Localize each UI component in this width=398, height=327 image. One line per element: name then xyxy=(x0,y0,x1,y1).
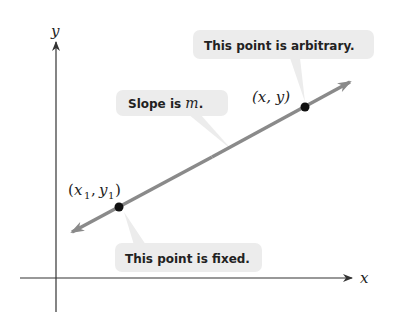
svg-text:(: ( xyxy=(68,181,74,199)
fixed-point xyxy=(115,203,124,212)
svg-text:,: , xyxy=(91,181,96,199)
svg-text:): ) xyxy=(115,181,121,199)
svg-text:This point is fixed.: This point is fixed. xyxy=(125,252,250,266)
callout-slope: Slope is m. xyxy=(116,90,228,116)
svg-text:This point is arbitrary.: This point is arbitrary. xyxy=(204,39,355,53)
svg-text:1: 1 xyxy=(108,190,114,201)
callout-pointer-fixed xyxy=(124,212,146,245)
callout-arbitrary: This point is arbitrary. xyxy=(193,30,374,59)
callout-pointer-slope xyxy=(188,114,232,150)
svg-text:1: 1 xyxy=(84,190,90,201)
callout-pointer-arbitrary xyxy=(290,58,305,102)
y-axis-label: y xyxy=(50,22,60,40)
arbitrary-point xyxy=(301,103,310,112)
svg-text:x: x xyxy=(74,181,83,199)
point-slope-diagram: y x (x, y) ( x 1 , y 1 ) This point is a… xyxy=(0,0,398,327)
svg-text:Slope is m.: Slope is m. xyxy=(128,95,203,111)
arbitrary-point-label: (x, y) xyxy=(252,88,290,106)
svg-text:y: y xyxy=(98,181,108,199)
fixed-point-label: ( x 1 , y 1 ) xyxy=(68,181,121,201)
callout-fixed: This point is fixed. xyxy=(115,243,262,272)
x-axis-label: x xyxy=(360,269,369,287)
